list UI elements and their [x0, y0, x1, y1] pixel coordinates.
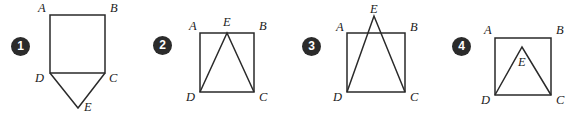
figure-4-drawing	[429, 0, 572, 121]
vertex-label-a-1: A	[38, 2, 46, 15]
figure-3-drawing	[286, 0, 429, 121]
figure-1: 1 A B C D E	[0, 0, 143, 121]
figure-2: 2 A B C D E	[143, 0, 286, 121]
vertex-label-d-3: D	[333, 91, 342, 104]
figure-4: 4 A B C D E	[429, 0, 572, 121]
figure-3: 3 A B C D E	[286, 0, 429, 121]
vertex-label-b-1: B	[110, 2, 118, 15]
geometry-figure-panel: 1 A B C D E 2 A B C D E 3 A B C D E	[0, 0, 572, 121]
square-abcd-3	[347, 33, 405, 92]
vertex-label-a-3: A	[336, 21, 344, 34]
vertex-label-c-1: C	[109, 72, 117, 85]
figure-1-drawing	[0, 0, 143, 121]
vertex-label-a-2: A	[189, 20, 197, 33]
vertex-label-c-4: C	[556, 94, 564, 107]
vertex-label-d-1: D	[35, 72, 44, 85]
vertex-label-e-2: E	[223, 16, 231, 29]
vertex-label-c-2: C	[259, 91, 267, 104]
figure-number-badge-2: 2	[153, 36, 172, 55]
vertex-label-e-4: E	[518, 56, 526, 69]
triangle-dec-3	[347, 16, 405, 92]
figure-number-badge-4: 4	[452, 37, 471, 56]
vertex-label-a-4: A	[484, 24, 492, 37]
figure-number-badge-3: 3	[302, 37, 321, 56]
vertex-label-e-1: E	[84, 101, 92, 114]
vertex-label-e-3: E	[370, 3, 378, 16]
vertex-label-b-2: B	[259, 20, 267, 33]
triangle-dec-1	[50, 73, 105, 108]
triangle-dec-2	[200, 33, 254, 92]
vertex-label-d-2: D	[186, 91, 195, 104]
figure-number-badge-1: 1	[11, 37, 30, 56]
vertex-label-b-3: B	[410, 21, 418, 34]
square-abcd-1	[50, 15, 105, 73]
square-abcd-2	[200, 33, 254, 92]
vertex-label-c-3: C	[410, 91, 418, 104]
vertex-label-b-4: B	[556, 24, 564, 37]
vertex-label-d-4: D	[481, 94, 490, 107]
